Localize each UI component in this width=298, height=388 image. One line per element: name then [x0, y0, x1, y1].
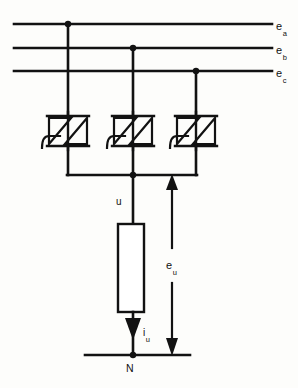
junction-dot-phase-c: [193, 68, 199, 74]
thyristor-pair-phase-a: [42, 112, 89, 175]
label-source-voltage-u: eu: [166, 256, 176, 275]
junction-dot-phase-a: [65, 21, 71, 27]
label-neutral-base: N: [126, 362, 134, 374]
label-phase-b-base: e: [276, 44, 282, 56]
label-neutral: N: [126, 359, 134, 375]
junction-dot-neutral: [130, 352, 136, 358]
label-phase-a-base: e: [276, 20, 282, 32]
label-phase-a: ea: [276, 17, 286, 36]
label-load-current-u-sub: u: [146, 335, 150, 344]
label-load-current-u: iu: [143, 323, 149, 342]
label-phase-b-sub: b: [283, 53, 287, 62]
thyristor-pair-phase-b: [107, 112, 154, 175]
label-phase-c: ec: [276, 64, 286, 83]
label-source-voltage-u-sub: u: [173, 268, 177, 277]
label-phase-c-sub: c: [283, 76, 287, 85]
thyristor-pair-phase-c: [170, 112, 217, 175]
label-phase-b: eb: [276, 41, 286, 60]
circuit-diagram-figure: ea eb ec u eu iu N: [0, 0, 298, 388]
label-phase-a-sub: a: [283, 29, 287, 38]
junction-dot-phase-b: [130, 45, 136, 51]
label-source-voltage-u-base: e: [166, 259, 172, 271]
load-current-arrow: [125, 318, 141, 340]
label-node-u: u: [116, 192, 122, 208]
eu-arrowhead-down: [166, 338, 178, 356]
load-resistor-body: [118, 224, 144, 312]
iu-arrowhead: [125, 318, 141, 340]
label-node-u-base: u: [116, 196, 122, 207]
label-load-current-u-base: i: [143, 327, 145, 338]
label-phase-c-base: e: [276, 67, 282, 79]
eu-arrowhead-up: [166, 174, 178, 190]
